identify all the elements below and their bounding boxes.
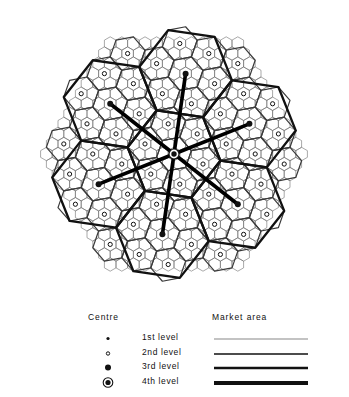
centre-marker-level-2	[253, 152, 257, 156]
centre-marker-level-2	[85, 122, 89, 126]
centre-marker-level-3	[235, 201, 241, 207]
centre-marker-level-2	[166, 262, 170, 266]
centre-marker-level-2	[259, 182, 263, 186]
centre-marker-level-2	[91, 152, 95, 156]
centre-marker-level-3	[107, 101, 113, 107]
centre-marker-level-2	[102, 212, 106, 216]
centre-marker-level-3	[96, 181, 102, 187]
centre-marker-level-2	[143, 142, 147, 146]
centre-marker-level-2	[79, 92, 83, 96]
legend-centre-symbol-3	[96, 361, 120, 374]
centre-marker-level-2	[62, 142, 66, 146]
centre-marker-level-2	[108, 242, 112, 246]
centre-marker-level-2	[166, 122, 170, 126]
legend-market-area-line-2	[212, 347, 312, 360]
centre-marker-level-2	[126, 192, 130, 196]
centre-marker-level-2	[224, 142, 228, 146]
centre-marker-level-2	[195, 132, 199, 136]
centre-marker-level-2	[178, 182, 182, 186]
centre-marker-level-2	[184, 212, 188, 216]
central-place-figure: Centre Market area 1st level2nd level3rd…	[0, 0, 349, 397]
legend: Centre Market area 1st level2nd level3rd…	[0, 306, 349, 397]
hexagonal-lattice-diagram	[0, 2, 349, 304]
centre-marker-level-2	[271, 102, 275, 106]
centre-marker-level-2	[137, 112, 141, 116]
centre-marker-level-3	[246, 121, 252, 127]
centre-marker-level-2	[114, 132, 118, 136]
centre-marker-level-2	[213, 222, 217, 226]
legend-market-area-line-3	[212, 361, 312, 374]
centre-marker-level-2	[242, 232, 246, 236]
legend-row: 4th level	[0, 376, 349, 390]
centre-marker-level-3	[159, 231, 165, 237]
legend-level-label: 2nd level	[142, 347, 181, 357]
legend-row: 2nd level	[0, 347, 349, 361]
centre-marker-level-3	[183, 71, 189, 77]
centre-marker-level-2	[207, 51, 211, 55]
centre-marker-level-2	[131, 82, 135, 86]
centre-marker-level-2	[120, 162, 124, 166]
centre-marker-level-2	[131, 222, 135, 226]
centre-marker-level-2	[230, 172, 234, 176]
legend-centre-symbol-1	[96, 332, 120, 345]
centre-marker-level-2	[189, 102, 193, 106]
centre-marker-level-2	[207, 192, 211, 196]
legend-centre-symbol-4	[96, 376, 120, 389]
centre-marker-level-2	[265, 212, 269, 216]
centre-marker-level-2	[73, 202, 77, 206]
legend-market-area-line-4	[212, 376, 312, 389]
centre-marker-level-2	[149, 172, 153, 176]
legend-row: 1st level	[0, 332, 349, 346]
centre-marker-level-2	[282, 162, 286, 166]
centre-marker-level-2	[137, 252, 141, 256]
legend-market-area-line-1	[212, 332, 312, 345]
centre-marker-level-2	[276, 132, 280, 136]
centre-marker-level-2	[178, 41, 182, 45]
centre-marker-level-2	[236, 61, 240, 65]
centre-marker-level-2	[102, 72, 106, 76]
centre-marker-level-2	[201, 162, 205, 166]
legend-level-label: 4th level	[142, 376, 179, 386]
centre-marker-level-2	[126, 51, 130, 55]
legend-level-label: 1st level	[142, 332, 179, 342]
legend-centre-symbol-2	[96, 347, 120, 360]
centre-marker-level-2	[155, 61, 159, 65]
centre-marker-level-2	[218, 252, 222, 256]
centre-marker-level-2	[189, 242, 193, 246]
centre-marker-level-2	[155, 202, 159, 206]
centre-marker-level-4	[169, 149, 179, 159]
legend-level-label: 3rd level	[142, 361, 180, 371]
centre-marker-level-2	[68, 172, 72, 176]
legend-header-market-area: Market area	[212, 312, 267, 322]
legend-row: 3rd level	[0, 361, 349, 375]
centre-marker-level-2	[218, 112, 222, 116]
centre-marker-level-2	[242, 92, 246, 96]
legend-header-centre: Centre	[88, 312, 119, 322]
centre-marker-level-2	[160, 92, 164, 96]
centre-marker-level-2	[213, 82, 217, 86]
